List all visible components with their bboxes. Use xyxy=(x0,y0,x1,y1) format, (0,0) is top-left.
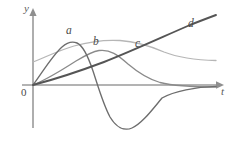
curve-label-a: a xyxy=(66,25,72,37)
y-axis-label: y xyxy=(24,3,29,14)
curve-c xyxy=(33,40,216,62)
t-axis-label: t xyxy=(221,86,224,97)
curve-label-d: d xyxy=(188,18,194,30)
figure-canvas: y t 0 a b c d xyxy=(0,0,238,141)
curve-label-b: b xyxy=(93,36,99,48)
curve-b xyxy=(33,50,216,87)
plot-svg xyxy=(0,0,238,141)
curve-label-c: c xyxy=(135,38,140,50)
y-axis-arrowhead xyxy=(29,8,36,16)
origin-label: 0 xyxy=(21,87,27,98)
